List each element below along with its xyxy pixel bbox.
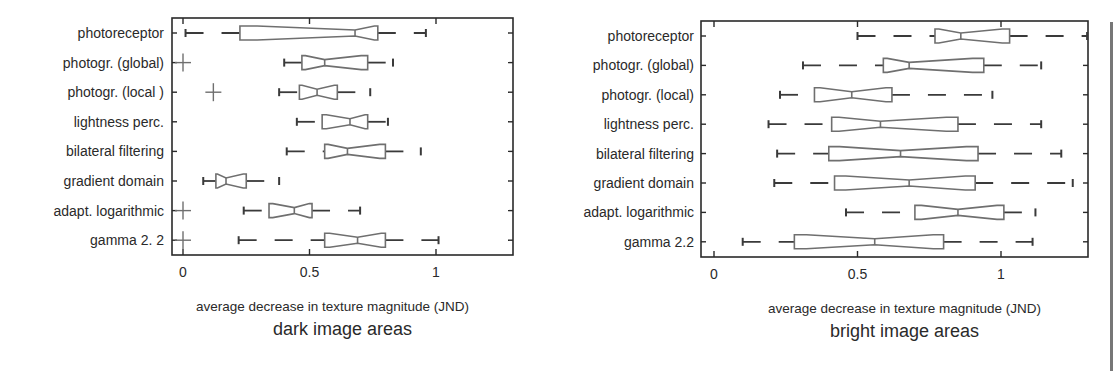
box-row: adapt. logarithmic xyxy=(583,204,1088,220)
notched-box xyxy=(883,58,983,72)
category-label: photoreceptor xyxy=(78,25,165,41)
category-label: photoreceptor xyxy=(608,28,695,44)
box-row: lightness perc. xyxy=(74,114,513,130)
box-row: gradient domain xyxy=(594,175,1088,191)
x-axis-label: average decrease in texture magnitude (J… xyxy=(768,301,1041,316)
box-row: gamma 2.2 xyxy=(624,234,1088,250)
category-label: gamma 2.2 xyxy=(624,234,694,250)
chart-title: bright image areas xyxy=(830,321,979,341)
page-edge-rule xyxy=(1110,22,1113,371)
notched-box xyxy=(835,176,976,190)
x-tick-label: 0 xyxy=(710,266,718,282)
x-axis-label: average decrease in texture magnitude (J… xyxy=(196,299,469,314)
notched-box xyxy=(325,233,386,247)
notched-box xyxy=(794,235,943,249)
figure: 00.51average decrease in texture magnitu… xyxy=(0,0,1117,371)
notched-box xyxy=(832,117,958,131)
notched-box xyxy=(915,205,1004,219)
notched-box xyxy=(302,56,368,70)
x-tick-label: 0 xyxy=(179,264,187,280)
category-label: gradient domain xyxy=(64,173,164,189)
notched-box xyxy=(325,144,386,158)
box-row: photogr. (global) xyxy=(63,54,513,72)
category-label: photogr. (global) xyxy=(63,55,164,71)
box-row: photoreceptor xyxy=(608,28,1088,44)
box-row: adapt. logarithmic xyxy=(53,202,513,220)
category-label: adapt. logarithmic xyxy=(53,203,164,219)
category-label: gamma 2. 2 xyxy=(90,232,164,248)
x-tick-label: 0.5 xyxy=(848,266,868,282)
x-tick-label: 1 xyxy=(432,264,440,280)
category-label: bilateral filtering xyxy=(596,146,694,162)
notched-box xyxy=(269,204,312,218)
box-row: photogr. (global) xyxy=(593,57,1088,73)
chart-bright-areas: 00.51average decrease in texture magnitu… xyxy=(583,21,1088,341)
notched-box xyxy=(299,85,337,99)
axis-frame xyxy=(701,21,1088,257)
notched-box xyxy=(814,88,891,102)
chart-dark-areas: 00.51average decrease in texture magnitu… xyxy=(53,18,513,339)
box-row: gamma 2. 2 xyxy=(90,231,513,249)
box-row: photogr. (local) xyxy=(601,87,1088,103)
notched-box xyxy=(322,115,368,129)
boxplot-figure: 00.51average decrease in texture magnitu… xyxy=(0,0,1117,371)
notched-box xyxy=(829,147,978,161)
box-row: bilateral filtering xyxy=(66,143,513,159)
box-row: photoreceptor xyxy=(78,25,513,41)
category-label: photogr. (global) xyxy=(593,57,694,73)
notched-box xyxy=(935,29,1010,43)
notched-box xyxy=(240,26,378,40)
box-row: photogr. (local ) xyxy=(68,83,514,101)
category-label: adapt. logarithmic xyxy=(583,204,694,220)
axis-frame xyxy=(172,18,513,255)
x-tick-label: 1 xyxy=(997,266,1005,282)
box-row: lightness perc. xyxy=(604,116,1088,132)
category-label: photogr. (local ) xyxy=(68,84,165,100)
x-tick-label: 0.5 xyxy=(300,264,320,280)
notched-box xyxy=(216,174,246,188)
category-label: gradient domain xyxy=(594,175,694,191)
category-label: bilateral filtering xyxy=(66,143,164,159)
category-label: lightness perc. xyxy=(74,114,164,130)
category-label: photogr. (local) xyxy=(601,87,694,103)
category-label: lightness perc. xyxy=(604,116,694,132)
box-row: gradient domain xyxy=(64,173,513,189)
chart-title: dark image areas xyxy=(273,319,412,339)
box-row: bilateral filtering xyxy=(596,146,1088,162)
